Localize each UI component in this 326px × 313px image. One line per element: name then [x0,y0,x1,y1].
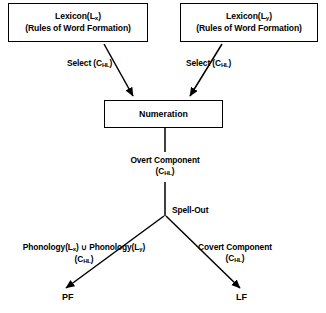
label-covert-component: Covert Component (CHL) [198,242,272,265]
derivation-diagram: Lexicon(Lx) (Rules of Word Formation) Le… [0,0,326,313]
label-spell-out: Spell-Out [172,205,208,216]
phonology-union-line1: Phonology(Lx) ∪ Phonology(Ly) [23,242,145,254]
node-lexicon-x: Lexicon(Lx) (Rules of Word Formation) [8,3,148,42]
select-left-subscript: HL [102,62,110,68]
covert-component-line2: (CHL) [198,253,272,265]
node-numeration: Numeration [104,100,223,128]
label-phonology-union: Phonology(Lx) ∪ Phonology(Ly) (CHL) [23,242,145,266]
label-select-left: Select (CHL) [67,58,112,70]
label-overt-component: Overt Component (CHL) [130,155,199,178]
lexicon-y-subtitle: (Rules of Word Formation) [196,23,302,34]
lexicon-y-title: Lexicon(Ly) [226,11,272,22]
covert-component-line1: Covert Component [198,242,272,253]
phonology-union-line2: (CHL) [23,254,145,266]
overt-component-line1: Overt Component [130,155,199,166]
select-right-subscript: HL [221,62,229,68]
lexicon-x-title: Lexicon(Lx) [55,11,101,22]
lexicon-x-subtitle: (Rules of Word Formation) [25,23,131,34]
phonology-union-subscript: HL [83,259,91,265]
label-select-right: Select (CHL) [186,58,231,70]
numeration-label: Numeration [139,109,188,120]
covert-component-subscript: HL [234,257,242,263]
node-lf: LF [236,292,247,304]
overt-component-line2: (CHL) [130,166,199,178]
node-lexicon-y: Lexicon(Ly) (Rules of Word Formation) [180,3,318,42]
node-pf: PF [62,292,73,304]
